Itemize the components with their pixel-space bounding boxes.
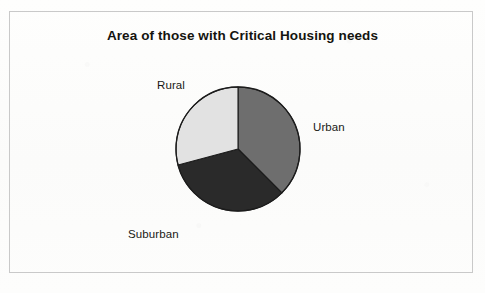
pie-slices-group — [176, 87, 300, 211]
screenshot-page: Area of those with Critical Housing need… — [0, 0, 485, 293]
pie-label-rural: Rural — [157, 79, 185, 91]
pie-chart — [0, 0, 485, 293]
pie-label-suburban: Suburban — [128, 228, 179, 240]
pie-label-urban: Urban — [313, 121, 345, 133]
